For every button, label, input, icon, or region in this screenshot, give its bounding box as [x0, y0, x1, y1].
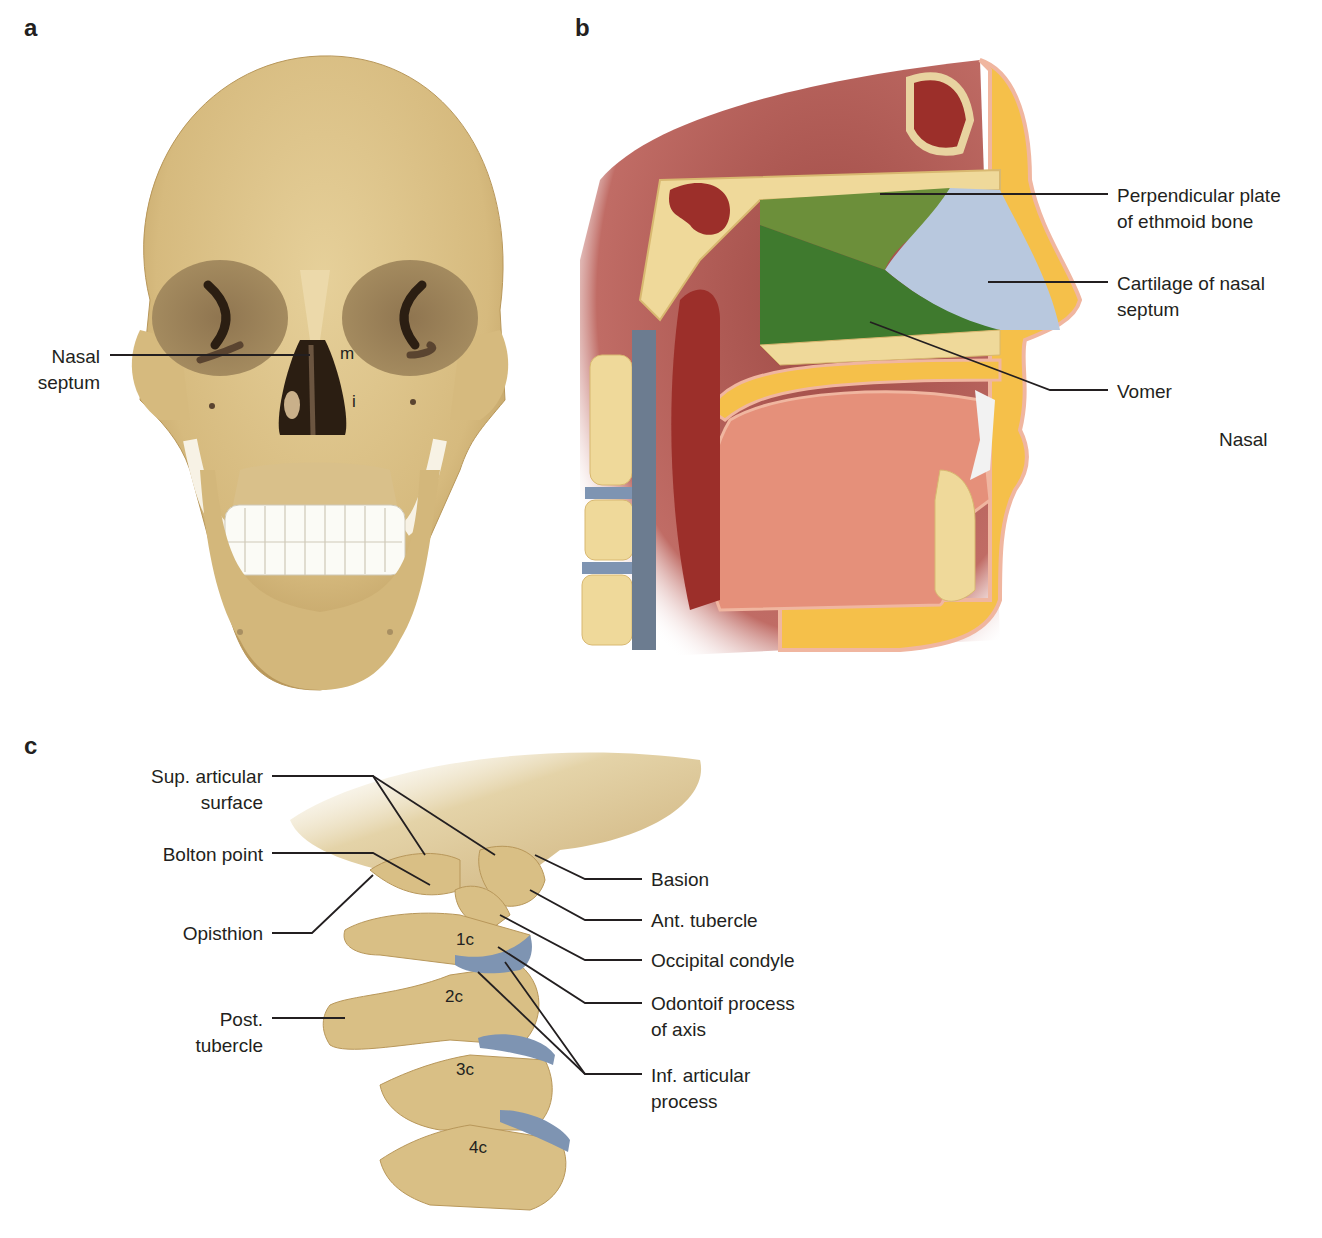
label-occipital-condyle: Occipital condyle [651, 948, 795, 974]
vertebra-label-4c: 4c [469, 1138, 487, 1158]
leader-line-basion [535, 855, 642, 879]
label-opisthion: Opisthion [183, 921, 263, 947]
label-bolton-point: Bolton point [163, 842, 263, 868]
leader-line-ant-tubercle [530, 890, 642, 920]
label-basion: Basion [651, 867, 709, 893]
label-inf-articular-process: Inf. articular process [651, 1063, 750, 1115]
vertebra-label-2c: 2c [445, 987, 463, 1007]
label-post-tubercle: Post. tubercle [195, 1007, 263, 1059]
label-sup-articular-surface: Sup. articular surface [151, 764, 263, 816]
label-ant-tubercle: Ant. tubercle [651, 908, 758, 934]
vertebra-label-3c: 3c [456, 1060, 474, 1080]
label-odontoid-process: Odontoif process of axis [651, 991, 795, 1043]
vertebra-label-1c: 1c [456, 930, 474, 950]
